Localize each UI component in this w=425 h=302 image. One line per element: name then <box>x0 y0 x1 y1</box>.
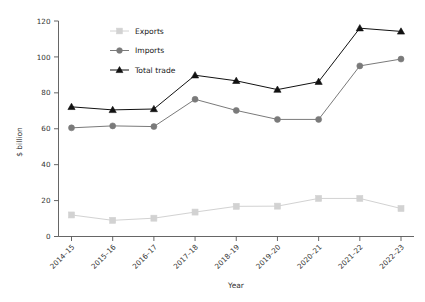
x-tick-label: 2022–23 <box>378 243 406 271</box>
x-tick-label: 2016–17 <box>130 243 158 271</box>
data-point-marker <box>274 203 280 209</box>
data-point-marker <box>110 123 116 129</box>
x-tick-label: 2014–15 <box>48 243 76 271</box>
data-point-marker <box>233 203 239 209</box>
legend-item-total-trade: Total trade <box>110 66 176 75</box>
data-point-marker <box>357 63 363 69</box>
legend-item-imports: Imports <box>110 46 164 55</box>
x-tick-label: 2021–22 <box>336 243 364 271</box>
data-point-marker <box>398 205 404 211</box>
y-tick-label: 60 <box>41 124 51 133</box>
legend-label: Imports <box>135 46 164 55</box>
data-point-marker <box>151 124 157 130</box>
data-point-marker <box>398 56 404 62</box>
data-point-marker <box>151 215 157 221</box>
data-point-marker <box>192 209 198 215</box>
data-point-marker <box>316 195 322 201</box>
chart-legend: ExportsImportsTotal trade <box>110 27 176 75</box>
data-point-marker <box>316 116 322 122</box>
y-tick-label: 120 <box>37 17 51 26</box>
x-tick-label: 2017–18 <box>172 242 201 271</box>
data-point-marker <box>117 48 123 54</box>
data-point-marker <box>68 103 75 109</box>
data-point-marker <box>117 28 123 34</box>
chart-figure: 020406080100120 2014–152015–162016–17201… <box>0 0 425 302</box>
y-tick-label: 40 <box>41 160 51 169</box>
data-point-marker <box>191 72 198 78</box>
data-point-marker <box>192 96 198 102</box>
y-tick-label: 80 <box>41 88 51 97</box>
x-tick-label: 2015–16 <box>89 242 118 271</box>
data-point-marker <box>274 116 280 122</box>
data-point-marker <box>69 212 75 218</box>
legend-label: Total trade <box>134 66 176 75</box>
x-tick-label: 2020–21 <box>295 243 323 271</box>
legend-item-exports: Exports <box>110 27 164 36</box>
data-point-marker <box>110 217 116 223</box>
y-tick-label: 0 <box>46 232 51 241</box>
x-tick-label: 2019–20 <box>254 242 283 271</box>
trade-line-chart: 020406080100120 2014–152015–162016–17201… <box>0 0 425 302</box>
x-axis-tick-labels: 2014–152015–162016–172017–182018–192019–… <box>48 242 406 271</box>
x-axis-title: Year <box>227 281 245 290</box>
legend-label: Exports <box>135 27 164 36</box>
data-point-marker <box>356 25 363 31</box>
y-axis-title: $ billion <box>15 127 24 157</box>
x-tick-label: 2018–19 <box>213 242 242 271</box>
y-tick-label: 20 <box>41 196 51 205</box>
y-tick-label: 100 <box>37 53 51 62</box>
data-point-marker <box>69 125 75 131</box>
data-series-layer <box>68 25 405 224</box>
y-axis-tick-labels: 020406080100120 <box>37 17 51 242</box>
x-axis-ticks <box>72 237 402 242</box>
series-exports <box>69 195 405 223</box>
data-point-marker <box>233 107 239 113</box>
data-point-marker <box>357 195 363 201</box>
y-axis-ticks <box>54 21 59 237</box>
